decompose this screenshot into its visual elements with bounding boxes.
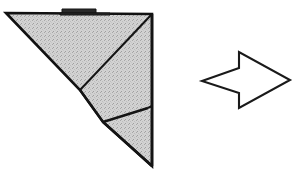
fold-direction-arrow-outline	[202, 52, 290, 108]
top-raised-tab-block	[62, 9, 96, 13]
paper-body-fill	[6, 13, 152, 122]
folded-paper-model	[6, 13, 152, 166]
top-raised-tab	[60, 9, 110, 15]
fold-direction-arrow	[202, 52, 290, 108]
origami-diagram	[0, 0, 300, 172]
diagram-canvas	[0, 0, 300, 172]
top-raised-tab-shadow	[60, 13, 110, 15]
